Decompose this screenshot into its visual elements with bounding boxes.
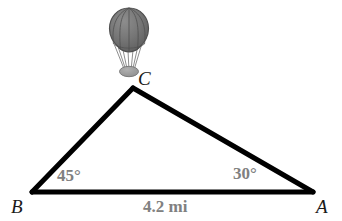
vertex-label-a: A <box>316 197 328 216</box>
vertex-label-b: B <box>11 197 23 216</box>
vertex-label-c: C <box>138 69 151 88</box>
hot-air-balloon-icon <box>110 8 149 77</box>
angle-label-a: 30° <box>233 165 257 182</box>
balloon-basket-icon <box>120 66 139 76</box>
triangle-diagram-canvas <box>0 0 342 221</box>
side-length-label-ba: 4.2 mi <box>143 198 187 215</box>
triangle-side-BC <box>32 88 133 192</box>
angle-label-b: 45° <box>57 167 81 184</box>
triangle-side-CA <box>133 88 313 192</box>
